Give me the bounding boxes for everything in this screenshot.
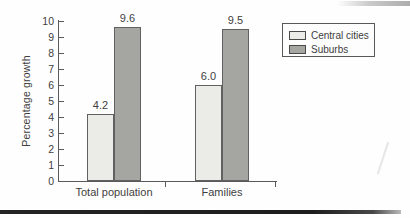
y-tick-label-1: 1 <box>34 160 54 171</box>
legend-entry-suburbs: Suburbs <box>289 43 374 55</box>
page-rule-bottom <box>0 210 401 214</box>
y-tick-label-3: 3 <box>34 128 54 139</box>
category-label-total-population: Total population <box>69 186 159 198</box>
bar-central-cities-total-population <box>87 114 114 181</box>
bar-chart-figure: Percentage growth 0123456789104.29.6Tota… <box>0 0 410 218</box>
y-tick-4 <box>59 117 64 118</box>
y-tick-0 <box>59 181 64 182</box>
y-tick-8 <box>59 53 64 54</box>
y-tick-3 <box>59 133 64 134</box>
legend-box: Central cities Suburbs <box>282 23 375 57</box>
y-tick-1 <box>59 165 64 166</box>
y-tick-5 <box>59 101 64 102</box>
legend-swatch-central-cities <box>289 31 306 40</box>
value-label-suburbs-families: 9.5 <box>212 15 259 26</box>
y-tick-label-7: 7 <box>34 64 54 75</box>
x-tick-1 <box>275 182 276 187</box>
y-tick-label-9: 9 <box>34 32 54 43</box>
category-label-families: Families <box>177 186 267 198</box>
y-tick-10 <box>59 21 64 22</box>
y-tick-2 <box>59 149 64 150</box>
legend-entry-central-cities: Central cities <box>289 29 374 41</box>
scan-artifact-scratch <box>377 142 389 175</box>
y-tick-label-0: 0 <box>34 176 54 187</box>
y-tick-label-4: 4 <box>34 112 54 123</box>
scan-artifact-top-right <box>337 1 410 6</box>
y-tick-label-5: 5 <box>34 96 54 107</box>
y-tick-label-6: 6 <box>34 80 54 91</box>
value-label-suburbs-total-population: 9.6 <box>104 13 151 24</box>
bar-central-cities-families <box>195 85 222 181</box>
y-tick-label-8: 8 <box>34 48 54 59</box>
y-tick-label-10: 10 <box>34 16 54 27</box>
x-tick-0 <box>165 182 166 187</box>
y-tick-label-2: 2 <box>34 144 54 155</box>
bar-suburbs-total-population <box>114 27 141 181</box>
y-tick-9 <box>59 37 64 38</box>
x-axis-line <box>58 181 277 182</box>
legend-swatch-suburbs <box>289 45 306 54</box>
y-axis-title: Percentage growth <box>20 46 32 156</box>
bar-suburbs-families <box>222 29 249 181</box>
legend-label-suburbs: Suburbs <box>311 44 348 55</box>
legend-label-central-cities: Central cities <box>311 30 369 41</box>
y-tick-7 <box>59 69 64 70</box>
y-tick-6 <box>59 85 64 86</box>
